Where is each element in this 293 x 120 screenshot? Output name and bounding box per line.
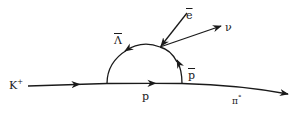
proton-symbol: p bbox=[142, 90, 149, 103]
antiproton-symbol: p bbox=[188, 69, 195, 82]
positron-line bbox=[161, 13, 187, 46]
antiproton-label: p bbox=[188, 70, 195, 81]
positron-label: e bbox=[186, 10, 193, 21]
neutrino-label: ν bbox=[225, 22, 232, 33]
pion-charge: ° bbox=[238, 94, 242, 102]
pion-label: π° bbox=[232, 95, 241, 106]
proton-label: p bbox=[142, 91, 149, 102]
antilambda-line bbox=[125, 44, 160, 51]
antiproton-line bbox=[177, 60, 182, 84]
pion-line bbox=[182, 84, 288, 95]
antilambda-label: Λ bbox=[114, 35, 122, 46]
kaon-charge: + bbox=[17, 78, 23, 86]
kaon-symbol: K bbox=[9, 79, 17, 92]
kaon-line bbox=[28, 84, 107, 87]
positron-symbol: e bbox=[186, 9, 193, 22]
neutrino-symbol: ν bbox=[225, 21, 232, 34]
kaon-label: K+ bbox=[9, 79, 23, 91]
antilambda-symbol: Λ bbox=[114, 34, 122, 47]
